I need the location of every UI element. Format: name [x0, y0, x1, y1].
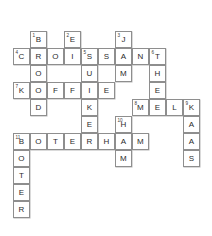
crossword-cell[interactable]: 7K — [13, 82, 30, 99]
crossword-cell[interactable]: D — [30, 99, 47, 116]
crossword-cell[interactable]: H — [149, 65, 166, 82]
cell-letter: K — [14, 87, 29, 95]
crossword-cell[interactable]: E — [149, 99, 166, 116]
cell-letter: B — [14, 138, 29, 146]
crossword-cell[interactable]: E — [64, 133, 81, 150]
cell-letter: O — [31, 70, 46, 78]
cell-letter: E — [65, 138, 80, 146]
cell-letter: E — [150, 87, 165, 95]
cell-letter: M — [116, 155, 131, 163]
crossword-cell[interactable]: 4C — [13, 48, 30, 65]
crossword-cell[interactable]: 9K — [183, 99, 200, 116]
cell-letter: O — [14, 155, 29, 163]
cell-letter: T — [48, 138, 63, 146]
crossword-cell[interactable]: M — [132, 133, 149, 150]
cell-letter: A — [184, 121, 199, 129]
crossword-cell[interactable]: 3J — [115, 31, 132, 48]
cell-letter: U — [82, 70, 97, 78]
crossword-puzzle: 1B2E3J4CROI5SSAN6TOUMH7KOFFIEEDK8MEL9KE1… — [0, 0, 212, 236]
crossword-cell[interactable]: E — [98, 82, 115, 99]
crossword-cell[interactable]: H — [98, 133, 115, 150]
cell-letter: L — [167, 104, 182, 112]
crossword-cell[interactable]: E — [13, 184, 30, 201]
crossword-cell[interactable]: A — [183, 133, 200, 150]
cell-letter: O — [48, 53, 63, 61]
cell-letter: R — [31, 53, 46, 61]
cell-letter: F — [65, 87, 80, 95]
crossword-cell[interactable]: 2E — [64, 31, 81, 48]
cell-letter: A — [116, 138, 131, 146]
cell-letter: H — [116, 121, 131, 129]
crossword-cell[interactable]: O — [30, 82, 47, 99]
cell-letter: E — [65, 36, 80, 44]
cell-letter: S — [184, 155, 199, 163]
crossword-cell[interactable]: M — [115, 150, 132, 167]
cell-letter: E — [14, 189, 29, 197]
crossword-cell[interactable]: A — [115, 48, 132, 65]
crossword-cell[interactable]: T — [13, 167, 30, 184]
crossword-cell[interactable]: 5S — [81, 48, 98, 65]
cell-letter: M — [133, 104, 148, 112]
cell-letter: R — [14, 206, 29, 214]
cell-letter: O — [31, 138, 46, 146]
crossword-cell[interactable]: A — [115, 133, 132, 150]
cell-letter: B — [31, 36, 46, 44]
crossword-cell[interactable]: L — [166, 99, 183, 116]
crossword-cell[interactable]: I — [81, 82, 98, 99]
cell-letter: M — [116, 70, 131, 78]
cell-letter: T — [14, 172, 29, 180]
crossword-cell[interactable]: S — [98, 48, 115, 65]
crossword-cell[interactable]: F — [64, 82, 81, 99]
cell-letter: K — [184, 104, 199, 112]
crossword-cell[interactable]: M — [115, 65, 132, 82]
crossword-cell[interactable]: K — [81, 99, 98, 116]
crossword-cell[interactable]: 6T — [149, 48, 166, 65]
cell-letter: H — [99, 138, 114, 146]
crossword-cell[interactable]: R — [13, 201, 30, 218]
crossword-cell[interactable]: O — [30, 65, 47, 82]
cell-letter: I — [82, 87, 97, 95]
cell-letter: O — [31, 87, 46, 95]
cell-letter: M — [133, 138, 148, 146]
cell-letter: E — [99, 87, 114, 95]
crossword-cell[interactable]: T — [47, 133, 64, 150]
crossword-cell[interactable]: O — [47, 48, 64, 65]
crossword-cell[interactable]: E — [81, 116, 98, 133]
cell-letter: S — [99, 53, 114, 61]
cell-letter: S — [82, 53, 97, 61]
cell-letter: K — [82, 104, 97, 112]
cell-letter: A — [116, 53, 131, 61]
crossword-cell[interactable]: U — [81, 65, 98, 82]
cell-letter: E — [82, 121, 97, 129]
crossword-cell[interactable]: R — [30, 48, 47, 65]
crossword-cell[interactable]: N — [132, 48, 149, 65]
cell-letter: J — [116, 36, 131, 44]
crossword-grid[interactable]: 1B2E3J4CROI5SSAN6TOUMH7KOFFIEEDK8MEL9KE1… — [13, 31, 200, 218]
cell-letter: E — [150, 104, 165, 112]
crossword-cell[interactable]: 1B — [30, 31, 47, 48]
crossword-cell[interactable]: O — [13, 150, 30, 167]
cell-letter: N — [133, 53, 148, 61]
crossword-cell[interactable]: S — [183, 150, 200, 167]
crossword-cell[interactable]: O — [30, 133, 47, 150]
crossword-cell[interactable]: F — [47, 82, 64, 99]
cell-letter: C — [14, 53, 29, 61]
cell-letter: A — [184, 138, 199, 146]
crossword-cell[interactable]: R — [81, 133, 98, 150]
crossword-cell[interactable]: 10H — [115, 116, 132, 133]
crossword-cell[interactable]: 8M — [132, 99, 149, 116]
crossword-cell[interactable]: 11B — [13, 133, 30, 150]
crossword-cell[interactable]: A — [183, 116, 200, 133]
cell-letter: F — [48, 87, 63, 95]
crossword-cell[interactable]: I — [64, 48, 81, 65]
cell-letter: T — [150, 53, 165, 61]
cell-letter: R — [82, 138, 97, 146]
crossword-cell[interactable]: E — [149, 82, 166, 99]
cell-letter: H — [150, 70, 165, 78]
cell-letter: D — [31, 104, 46, 112]
cell-letter: I — [65, 53, 80, 61]
